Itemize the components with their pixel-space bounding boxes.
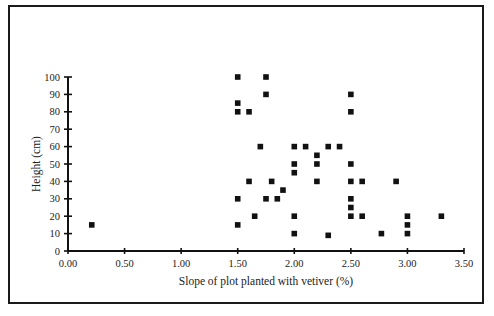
data-points — [89, 74, 444, 238]
data-point-square — [348, 92, 354, 98]
data-point-square — [235, 74, 241, 80]
y-tick-label: 0 — [55, 246, 60, 257]
data-point-square — [235, 222, 241, 228]
data-point-square — [258, 144, 264, 150]
data-point-square — [291, 231, 297, 237]
data-point-square — [252, 213, 258, 219]
data-point-square — [291, 213, 297, 219]
data-point-square — [325, 144, 331, 150]
data-point-square — [235, 109, 241, 115]
data-point-square — [314, 179, 320, 185]
data-point-square — [405, 231, 411, 237]
y-tick-label: 40 — [50, 176, 61, 187]
data-point-square — [89, 222, 95, 228]
x-tick-label: 3.00 — [398, 258, 416, 269]
y-tick-label: 20 — [50, 211, 61, 222]
data-point-square — [291, 170, 297, 176]
y-tick-label: 10 — [50, 228, 61, 239]
x-axis-title: Slope of plot planted with vetiver (%) — [179, 275, 354, 288]
y-axis-title: Height (cm) — [30, 136, 43, 192]
x-tick-label: 2.00 — [285, 258, 303, 269]
x-tick-label: 1.50 — [229, 258, 247, 269]
data-point-square — [348, 109, 354, 115]
data-point-square — [235, 196, 241, 202]
y-tick-label: 60 — [50, 141, 61, 152]
data-point-square — [269, 179, 275, 185]
y-tick-label: 90 — [50, 89, 61, 100]
data-point-square — [275, 196, 281, 202]
axes: 0.000.501.001.502.002.503.003.5001020304… — [44, 72, 473, 270]
data-point-square — [439, 213, 445, 219]
data-point-square — [359, 179, 365, 185]
x-tick-label: 0.00 — [59, 258, 77, 269]
data-point-square — [263, 74, 269, 80]
data-point-square — [348, 179, 354, 185]
data-point-square — [348, 196, 354, 202]
y-tick-label: 80 — [50, 106, 61, 117]
data-point-square — [291, 144, 297, 150]
data-point-square — [405, 213, 411, 219]
data-point-square — [246, 179, 252, 185]
data-point-square — [359, 213, 365, 219]
data-point-square — [291, 161, 297, 167]
data-point-square — [246, 109, 252, 115]
y-tick-label: 100 — [44, 72, 60, 83]
data-point-square — [263, 92, 269, 98]
scatter-plot: 0.000.501.001.502.002.503.003.5001020304… — [0, 0, 494, 316]
data-point-square — [393, 179, 399, 185]
y-tick-label: 70 — [50, 124, 61, 135]
data-point-square — [348, 161, 354, 167]
data-point-square — [263, 196, 269, 202]
data-point-square — [314, 161, 320, 167]
data-point-square — [325, 233, 331, 239]
y-tick-label: 50 — [50, 159, 61, 170]
y-tick-label: 30 — [50, 193, 61, 204]
data-point-square — [280, 187, 286, 193]
data-point-square — [348, 213, 354, 219]
data-point-square — [303, 144, 309, 150]
x-tick-label: 0.50 — [115, 258, 133, 269]
data-point-square — [314, 153, 320, 159]
data-point-square — [235, 100, 241, 106]
data-point-square — [405, 222, 411, 228]
data-point-square — [348, 205, 354, 211]
x-tick-label: 2.50 — [342, 258, 360, 269]
x-tick-label: 1.00 — [172, 258, 190, 269]
x-tick-label: 3.50 — [455, 258, 473, 269]
data-point-square — [379, 231, 385, 237]
data-point-square — [337, 144, 343, 150]
